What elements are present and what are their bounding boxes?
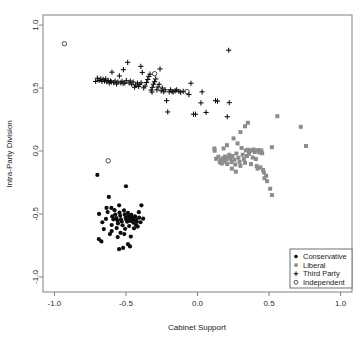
data-point — [238, 164, 242, 168]
data-point — [234, 170, 238, 174]
data-point — [97, 212, 101, 216]
data-point — [99, 239, 103, 243]
data-point — [246, 121, 250, 125]
legend-label: Independent — [303, 278, 346, 287]
data-point — [128, 244, 132, 248]
data-point — [243, 161, 247, 165]
data-point — [110, 223, 114, 227]
data-point — [234, 152, 238, 156]
data-point — [240, 146, 244, 150]
data-point — [137, 210, 141, 214]
data-point — [230, 154, 234, 158]
data-point — [225, 143, 229, 147]
y-tick-label: -1.0 — [31, 269, 40, 283]
data-point — [120, 219, 124, 223]
data-point — [116, 235, 120, 239]
y-axis-title: Intra-Party Division — [5, 120, 14, 188]
data-point — [117, 247, 121, 251]
data-point — [304, 144, 308, 148]
data-point — [120, 223, 124, 227]
data-point — [107, 195, 111, 199]
data-point — [238, 160, 242, 164]
data-point — [137, 216, 141, 220]
x-tick-label: -1.0 — [48, 299, 62, 308]
data-point — [122, 208, 126, 212]
data-point — [139, 203, 143, 207]
data-point — [232, 136, 236, 140]
data-point — [243, 124, 247, 128]
data-point — [138, 220, 142, 224]
data-point — [254, 157, 258, 161]
data-point — [118, 231, 122, 235]
data-point — [117, 203, 121, 207]
data-point — [222, 146, 226, 150]
data-point — [241, 153, 245, 157]
data-point — [236, 156, 240, 160]
data-point — [260, 151, 264, 155]
x-tick-label: 0.5 — [263, 299, 275, 308]
data-point — [106, 210, 110, 214]
data-point — [141, 217, 145, 221]
data-point — [115, 226, 119, 230]
data-point — [230, 167, 234, 171]
data-point — [134, 223, 138, 227]
data-point — [275, 114, 279, 118]
data-point — [299, 125, 303, 129]
data-point — [129, 235, 133, 239]
data-point — [268, 187, 272, 191]
data-point — [118, 214, 122, 218]
y-tick-label: 1.0 — [31, 19, 40, 31]
data-point — [265, 179, 269, 183]
data-point — [232, 158, 236, 162]
data-point — [236, 141, 240, 145]
plot-background — [0, 0, 362, 341]
scatter-plot-figure: -1.0-0.50.00.51.0-1.0-0.50.00.51.0 Cabin… — [0, 0, 362, 341]
data-point — [249, 162, 253, 166]
legend[interactable]: ConservativeLiberalThird PartyIndependen… — [290, 249, 352, 288]
data-point — [112, 208, 116, 212]
data-point — [124, 184, 128, 188]
data-point — [233, 163, 237, 167]
data-point — [104, 206, 108, 210]
y-tick-label: 0.5 — [31, 82, 40, 94]
data-point — [110, 229, 114, 233]
data-point — [104, 217, 108, 221]
legend-marker-filled-square-icon — [294, 263, 297, 266]
data-point — [270, 145, 274, 149]
y-tick-label: -0.5 — [31, 206, 40, 220]
y-tick-label: 0.0 — [31, 145, 40, 157]
data-point — [121, 246, 125, 250]
data-point — [122, 232, 126, 236]
x-tick-label: -0.5 — [119, 299, 133, 308]
legend-marker-filled-circle-icon — [294, 255, 298, 259]
data-point — [113, 212, 117, 216]
x-tick-label: 0.0 — [192, 299, 204, 308]
data-point — [225, 162, 229, 166]
plot-canvas: -1.0-0.50.00.51.0-1.0-0.50.00.51.0 Cabin… — [0, 0, 362, 341]
data-point — [100, 220, 104, 224]
data-point — [213, 149, 217, 153]
data-point — [127, 224, 131, 228]
x-axis-title: Cabinet Support — [168, 323, 227, 332]
data-point — [238, 130, 242, 134]
data-point — [95, 173, 99, 177]
data-point — [270, 193, 274, 197]
data-point — [123, 227, 127, 231]
x-tick-label: 1.0 — [335, 299, 347, 308]
data-point — [116, 221, 120, 225]
data-point — [102, 227, 106, 231]
